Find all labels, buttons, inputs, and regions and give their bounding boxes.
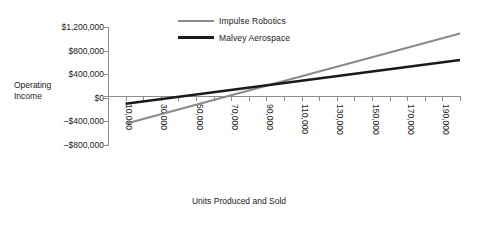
series-lines: [0, 0, 478, 227]
x-axis-title: Units Produced and Sold: [0, 196, 478, 206]
series-line-impulse-robotics: [126, 33, 460, 123]
series-line-malvey-aerospace: [126, 60, 460, 104]
line-chart: Impulse Robotics Malvey Aerospace Operat…: [0, 0, 478, 227]
